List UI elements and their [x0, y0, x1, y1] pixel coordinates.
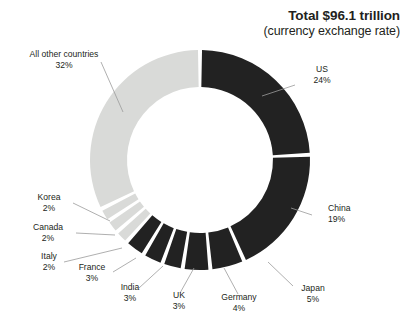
slice-label-name: France	[70, 262, 114, 273]
slice-label-name: Germany	[212, 292, 266, 303]
slice-label-india: India 3%	[112, 282, 148, 305]
slice-label-pct: 3%	[162, 301, 196, 312]
slice-label-italy: Italy 2%	[33, 251, 65, 274]
leader-line-france	[113, 258, 136, 272]
slice-label-canada: Canada 2%	[25, 222, 71, 245]
slice-label-name: All other countries	[10, 49, 118, 60]
slice-label-name: US	[306, 64, 338, 75]
leader-line-germany	[224, 268, 238, 294]
donut-slice-layer	[90, 50, 310, 270]
slice-label-korea: Korea 2%	[28, 192, 70, 215]
slice-label-name: Canada	[25, 222, 71, 233]
chart-title: Total $96.1 trillion	[263, 8, 400, 24]
donut-slice-china[interactable]	[230, 157, 310, 260]
slice-label-pct: 19%	[328, 214, 376, 225]
donut-slice-germany[interactable]	[185, 232, 209, 270]
slice-label-name: India	[112, 282, 148, 293]
slice-label-all-other-countries: All other countries 32%	[10, 49, 118, 72]
donut-slice-us[interactable]	[201, 50, 309, 155]
leader-line-japan	[268, 262, 293, 286]
slice-label-name: UK	[162, 290, 196, 301]
chart-page: Total $96.1 trillion (currency exchange …	[0, 0, 406, 330]
slice-label-germany: Germany 4%	[212, 292, 266, 315]
slice-label-china: China 19%	[328, 203, 376, 226]
slice-label-name: Korea	[28, 192, 70, 203]
slice-label-pct: 3%	[70, 273, 114, 284]
slice-label-pct: 2%	[28, 203, 70, 214]
slice-label-name: Italy	[33, 251, 65, 262]
slice-label-japan: Japan 5%	[293, 283, 333, 306]
slice-label-pct: 32%	[10, 60, 118, 71]
leader-line-italy	[64, 248, 122, 262]
slice-label-uk: UK 3%	[162, 290, 196, 313]
slice-label-pct: 3%	[112, 293, 148, 304]
slice-label-name: Japan	[293, 283, 333, 294]
slice-label-pct: 2%	[33, 262, 65, 273]
slice-label-france: France 3%	[70, 262, 114, 285]
slice-label-pct: 4%	[212, 303, 266, 314]
slice-label-pct: 24%	[306, 75, 338, 86]
slice-label-us: US 24%	[306, 64, 338, 87]
slice-label-name: China	[328, 203, 376, 214]
chart-title-block: Total $96.1 trillion (currency exchange …	[263, 8, 400, 39]
slice-label-pct: 2%	[25, 233, 71, 244]
leader-line-canada	[76, 233, 115, 235]
slice-label-pct: 5%	[293, 294, 333, 305]
chart-subtitle: (currency exchange rate)	[263, 24, 400, 39]
